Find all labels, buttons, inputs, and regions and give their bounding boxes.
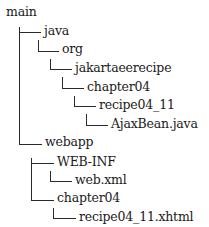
connector-web-xml [50, 181, 72, 182]
connector-jakartaeerecipe [50, 69, 72, 70]
tree-node-recipe04-11: recipe04_11 [99, 98, 175, 112]
tree-node-chapter04: chapter04 [87, 80, 150, 94]
tree-node-ajaxbean-java: AjaxBean.java [111, 117, 198, 131]
connector-ajaxbean [86, 125, 108, 126]
directory-tree: main java org jakartaeerecipe chapter04 … [0, 0, 209, 227]
connector-java [19, 32, 41, 33]
connector-ajaxbean-vertical [86, 114, 87, 125]
connector-org-vertical [38, 40, 39, 51]
connector-main-vertical [19, 27, 20, 145]
connector-chapter04 [62, 88, 84, 89]
connector-webapp-chapter04 [31, 200, 54, 201]
connector-xhtml-vertical [53, 208, 54, 218]
connector-recipe04-11-vertical [74, 96, 75, 106]
connector-web-inf [31, 163, 54, 164]
connector-webapp-vertical [31, 158, 32, 200]
tree-root-main: main [6, 5, 37, 19]
tree-node-webapp-chapter04: chapter04 [57, 191, 120, 205]
tree-node-org: org [62, 42, 83, 56]
connector-web-xml-vertical [50, 171, 51, 181]
tree-node-java: java [44, 24, 69, 38]
tree-node-recipe04-11-xhtml: recipe04_11.xhtml [79, 210, 193, 224]
tree-node-jakartaeerecipe: jakartaeerecipe [75, 61, 171, 75]
connector-org [38, 51, 59, 52]
tree-node-web-xml: web.xml [75, 173, 127, 187]
connector-recipe04-11 [74, 106, 96, 107]
tree-node-web-inf: WEB-INF [57, 155, 116, 169]
connector-webapp [19, 144, 42, 145]
connector-xhtml [53, 218, 76, 219]
tree-node-webapp: webapp [45, 135, 93, 149]
connector-jakartaeerecipe-vertical [50, 59, 51, 69]
connector-chapter04-vertical [62, 77, 63, 88]
